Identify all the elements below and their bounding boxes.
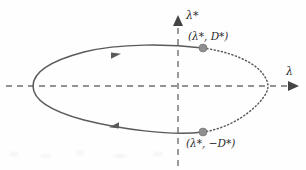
loop-dotted-branch <box>203 48 268 132</box>
horizontal-axis-label: λ <box>286 66 293 77</box>
figure-container: λ* λ (λ*, D*) (λ*, −D*) <box>0 0 306 170</box>
lower-point-marker <box>199 128 207 136</box>
horizontal-axis-arrowhead <box>288 81 299 91</box>
upper-flow-arrow-icon <box>111 52 121 58</box>
vertical-axis <box>173 15 183 166</box>
lower-point-label: (λ*, −D*) <box>186 138 235 149</box>
upper-point-label: (λ*, D*) <box>188 31 228 42</box>
figure-canvas <box>0 0 306 170</box>
upper-point-marker <box>199 44 207 52</box>
horizontal-axis <box>6 81 299 91</box>
vertical-axis-label: λ* <box>186 10 198 21</box>
vertical-axis-arrowhead <box>173 15 183 26</box>
